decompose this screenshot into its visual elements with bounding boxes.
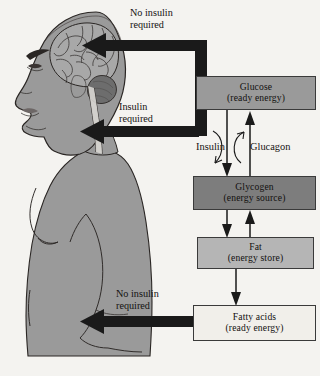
node-fat[interactable]: Fat (energy store) <box>197 237 314 269</box>
node-glycogen-line2: (energy source) <box>223 193 285 204</box>
node-glucose[interactable]: Glucose (ready energy) <box>196 76 316 110</box>
node-fatty-acids-line2: (ready energy) <box>225 323 283 334</box>
label-no-insulin-required-fatty-acids: No insulin required <box>116 288 159 311</box>
label-insulin: Insulin <box>196 141 225 153</box>
diagram-canvas: Glucose (ready energy) Glycogen (energy … <box>0 0 320 376</box>
bracket-bottom-horizontal <box>104 126 199 137</box>
fat-fattyacids-arrow <box>231 269 241 306</box>
fattyacids-arrow-shaft <box>104 316 196 327</box>
fat-to-glycogen-arrowhead <box>245 210 255 224</box>
glucagon-up-arrowhead <box>245 111 255 125</box>
fat-to-fattyacids-arrowhead <box>231 292 241 306</box>
label-no-insulin-required-brain: No insulin required <box>130 7 173 30</box>
label-no-insulin-required-fatty-acids-line1: No insulin <box>116 288 159 300</box>
label-insulin-required-body-line1: Insulin <box>119 101 153 113</box>
label-insulin-required-body: Insulin required <box>119 101 153 124</box>
node-fat-line2: (energy store) <box>228 253 283 264</box>
label-no-insulin-required-fatty-acids-line2: required <box>116 300 159 312</box>
node-glycogen[interactable]: Glycogen (energy source) <box>193 176 316 210</box>
glycogen-fat-arrows <box>222 210 255 238</box>
label-no-insulin-required-brain-line2: required <box>130 19 173 31</box>
label-insulin-required-body-line2: required <box>119 113 153 125</box>
glucagon-curve <box>234 132 244 163</box>
node-fatty-acids[interactable]: Fatty acids (ready energy) <box>193 305 316 341</box>
label-no-insulin-required-brain-line1: No insulin <box>130 7 173 19</box>
insulin-down-arrowhead <box>222 163 232 177</box>
glycogen-to-fat-arrowhead <box>222 224 232 238</box>
bracket-top-horizontal <box>104 40 199 51</box>
label-glucagon: Glucagon <box>250 141 290 153</box>
node-glucose-line2: (ready energy) <box>227 93 285 104</box>
